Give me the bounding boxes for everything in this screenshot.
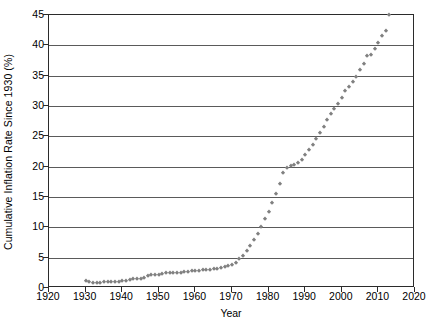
data-point <box>237 257 242 262</box>
data-point <box>321 124 326 129</box>
y-tick-label-15: 15 <box>4 191 44 201</box>
data-point <box>325 118 330 123</box>
x-axis-tick-labels: 1920193019401950196019701980199020002010… <box>0 290 439 306</box>
y-tick-mark-40 <box>43 44 48 45</box>
data-point <box>361 62 366 67</box>
plot-area <box>48 14 414 287</box>
data-point <box>350 80 355 85</box>
y-tick-mark-45 <box>43 14 48 15</box>
x-tick-mark-2010 <box>377 287 378 292</box>
data-point <box>383 28 388 33</box>
data-point <box>270 201 275 206</box>
y-tick-label-5: 5 <box>4 252 44 262</box>
y-tick-mark-5 <box>43 257 48 258</box>
data-point <box>343 88 348 93</box>
gridline-40 <box>49 45 413 46</box>
data-point <box>248 243 253 248</box>
data-point <box>317 131 322 136</box>
x-tick-mark-2000 <box>341 287 342 292</box>
data-point <box>380 34 385 39</box>
x-tick-mark-1980 <box>268 287 269 292</box>
data-point <box>369 53 374 58</box>
data-point <box>306 147 311 152</box>
y-tick-label-20: 20 <box>4 161 44 171</box>
data-point <box>274 192 279 197</box>
y-tick-mark-30 <box>43 105 48 106</box>
data-point <box>347 84 352 89</box>
data-point <box>358 68 363 73</box>
x-tick-mark-1930 <box>85 287 86 292</box>
data-point <box>233 260 238 265</box>
y-tick-label-10: 10 <box>4 221 44 231</box>
data-point <box>281 171 286 176</box>
data-point <box>387 13 392 18</box>
x-tick-mark-1960 <box>194 287 195 292</box>
gridline-25 <box>49 136 413 137</box>
y-tick-mark-35 <box>43 75 48 76</box>
gridline-15 <box>49 197 413 198</box>
y-tick-label-30: 30 <box>4 100 44 110</box>
data-point <box>266 209 271 214</box>
y-tick-mark-10 <box>43 226 48 227</box>
y-tick-mark-20 <box>43 166 48 167</box>
data-point <box>328 111 333 116</box>
y-tick-label-35: 35 <box>4 70 44 80</box>
y-tick-label-45: 45 <box>4 9 44 19</box>
data-point <box>310 142 315 147</box>
data-point <box>339 95 344 100</box>
x-tick-mark-1920 <box>48 287 49 292</box>
data-point <box>252 238 257 243</box>
data-point <box>263 217 268 222</box>
y-tick-mark-25 <box>43 135 48 136</box>
data-point <box>255 232 260 237</box>
x-tick-mark-1970 <box>231 287 232 292</box>
data-point <box>277 181 282 186</box>
x-tick-mark-1990 <box>304 287 305 292</box>
y-tick-label-40: 40 <box>4 39 44 49</box>
gridline-5 <box>49 258 413 259</box>
data-point <box>244 249 249 254</box>
gridline-30 <box>49 106 413 107</box>
x-tick-mark-2020 <box>414 287 415 292</box>
gridline-20 <box>49 167 413 168</box>
gridline-10 <box>49 227 413 228</box>
y-tick-label-25: 25 <box>4 130 44 140</box>
y-axis-tick-labels: 051015202530354045 <box>0 0 44 329</box>
x-tick-mark-1950 <box>158 287 159 292</box>
x-tick-mark-1940 <box>121 287 122 292</box>
data-point <box>303 152 308 157</box>
data-point <box>332 107 337 112</box>
x-axis-title: Year <box>48 307 414 320</box>
data-point <box>314 137 319 142</box>
data-point <box>372 47 377 52</box>
y-tick-mark-15 <box>43 196 48 197</box>
data-point <box>259 225 264 230</box>
inflation-chart: Cumulative Inflation Rate Since 1930 (%)… <box>0 0 439 329</box>
